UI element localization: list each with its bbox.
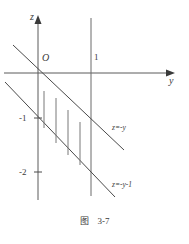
line-z-equals-minus-y-minus-1 [5,82,115,197]
figure-container: z y O 1 -1 -2 z=-y z=-y-1 图3-7 [0,0,189,244]
curve-label-lower: z=-y-1 [112,181,132,189]
origin-label: O [42,53,49,63]
figure-caption: 图3-7 [0,214,189,227]
z-axis-arrow-icon [35,15,42,24]
curve-label-upper: z=-y [112,124,126,132]
caption-label: 图 [80,216,89,226]
tick-label-z-neg-2: -2 [19,168,27,177]
figure-plot-area [0,0,189,244]
caption-number: 3-7 [98,216,110,226]
z-axis-label: z [30,12,34,22]
y-axis-label: y [169,76,173,86]
tick-label-y-1: 1 [94,53,99,62]
tick-label-z-neg-1: -1 [19,114,27,123]
